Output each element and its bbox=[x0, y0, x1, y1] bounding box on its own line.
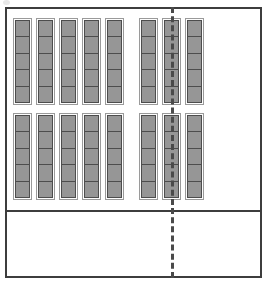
module-cell bbox=[84, 53, 99, 70]
module-cell bbox=[15, 69, 30, 86]
module-cell bbox=[107, 86, 122, 103]
zone-divider-line bbox=[5, 210, 262, 212]
module-column bbox=[36, 18, 55, 105]
module-cell bbox=[15, 115, 30, 132]
module-cell bbox=[61, 86, 76, 103]
scan-artifact-speck bbox=[3, 0, 10, 5]
module-cell bbox=[107, 36, 122, 53]
module-cell bbox=[107, 53, 122, 70]
module-cell bbox=[38, 86, 53, 103]
module-cell bbox=[61, 115, 76, 132]
module-cell bbox=[141, 131, 156, 148]
module-cell bbox=[38, 115, 53, 132]
module-cell bbox=[38, 36, 53, 53]
lower-module-block bbox=[13, 113, 165, 200]
module-array-field bbox=[13, 18, 165, 200]
module-cell bbox=[141, 86, 156, 103]
module-column bbox=[82, 113, 101, 200]
module-cell bbox=[141, 69, 156, 86]
module-cell bbox=[61, 164, 76, 181]
module-column bbox=[59, 113, 78, 200]
module-cell bbox=[107, 115, 122, 132]
module-cell bbox=[38, 69, 53, 86]
module-cell bbox=[107, 20, 122, 37]
module-cell bbox=[141, 148, 156, 165]
module-cell bbox=[187, 20, 202, 37]
module-cell bbox=[187, 164, 202, 181]
module-column bbox=[185, 18, 204, 105]
floor-plan-diagram bbox=[0, 0, 272, 286]
module-cell bbox=[141, 20, 156, 37]
module-column bbox=[36, 113, 55, 200]
module-column bbox=[105, 113, 124, 200]
module-cell bbox=[61, 148, 76, 165]
module-cell bbox=[84, 164, 99, 181]
module-cell bbox=[84, 148, 99, 165]
module-cell bbox=[15, 36, 30, 53]
module-cell bbox=[38, 181, 53, 198]
upper-left-column-group bbox=[13, 18, 124, 105]
module-cell bbox=[187, 131, 202, 148]
module-cell bbox=[15, 181, 30, 198]
module-column bbox=[82, 18, 101, 105]
module-cell bbox=[84, 86, 99, 103]
module-cell bbox=[187, 115, 202, 132]
module-cell bbox=[187, 69, 202, 86]
module-cell bbox=[84, 131, 99, 148]
module-cell bbox=[84, 181, 99, 198]
module-cell bbox=[84, 36, 99, 53]
module-cell bbox=[187, 148, 202, 165]
module-cell bbox=[61, 53, 76, 70]
module-cell bbox=[187, 181, 202, 198]
module-cell bbox=[141, 53, 156, 70]
module-cell bbox=[107, 148, 122, 165]
module-column bbox=[13, 18, 32, 105]
module-cell bbox=[15, 148, 30, 165]
module-cell bbox=[107, 69, 122, 86]
module-cell bbox=[187, 86, 202, 103]
lower-left-column-group bbox=[13, 113, 124, 200]
module-column bbox=[185, 113, 204, 200]
module-cell bbox=[84, 69, 99, 86]
module-cell bbox=[61, 181, 76, 198]
module-cell bbox=[107, 181, 122, 198]
module-cell bbox=[141, 164, 156, 181]
module-cell bbox=[38, 20, 53, 37]
module-column bbox=[13, 113, 32, 200]
center-axis-dashed-line bbox=[171, 7, 174, 278]
module-cell bbox=[15, 86, 30, 103]
module-cell bbox=[61, 69, 76, 86]
module-cell bbox=[187, 36, 202, 53]
module-cell bbox=[38, 131, 53, 148]
module-cell bbox=[38, 53, 53, 70]
module-cell bbox=[15, 131, 30, 148]
module-cell bbox=[84, 115, 99, 132]
module-column bbox=[139, 113, 158, 200]
module-cell bbox=[107, 131, 122, 148]
module-cell bbox=[15, 20, 30, 37]
module-cell bbox=[38, 148, 53, 165]
module-cell bbox=[15, 53, 30, 70]
module-cell bbox=[141, 115, 156, 132]
module-column bbox=[139, 18, 158, 105]
module-cell bbox=[15, 164, 30, 181]
upper-module-block bbox=[13, 18, 165, 105]
module-cell bbox=[107, 164, 122, 181]
module-column bbox=[59, 18, 78, 105]
module-cell bbox=[61, 36, 76, 53]
module-cell bbox=[38, 164, 53, 181]
module-cell bbox=[141, 181, 156, 198]
module-cell bbox=[61, 20, 76, 37]
module-cell bbox=[187, 53, 202, 70]
module-cell bbox=[61, 131, 76, 148]
module-column bbox=[105, 18, 124, 105]
module-cell bbox=[84, 20, 99, 37]
module-cell bbox=[141, 36, 156, 53]
